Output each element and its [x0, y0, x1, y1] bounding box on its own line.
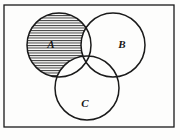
venn-diagram-figure: A B C	[0, 0, 180, 140]
venn-diagram-canvas: A B C	[0, 0, 180, 140]
shaded-region-a-only	[0, 0, 180, 140]
set-label-a: A	[46, 38, 54, 50]
set-label-b: B	[117, 38, 125, 50]
set-label-c: C	[81, 97, 89, 109]
